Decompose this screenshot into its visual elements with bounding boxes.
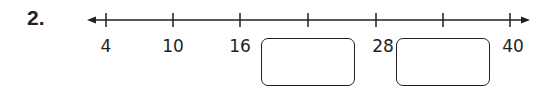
tick-label-28: 28: [372, 36, 394, 56]
left-arrow-icon: [87, 17, 96, 24]
tick-label-10: 10: [162, 36, 184, 56]
right-arrow-icon: [521, 17, 530, 24]
tick-label-16: 16: [229, 36, 251, 56]
tick-label-40: 40: [502, 36, 524, 56]
answer-box-1[interactable]: [261, 38, 355, 86]
answer-box-2[interactable]: [396, 38, 490, 86]
tick-label-4: 4: [101, 36, 112, 56]
